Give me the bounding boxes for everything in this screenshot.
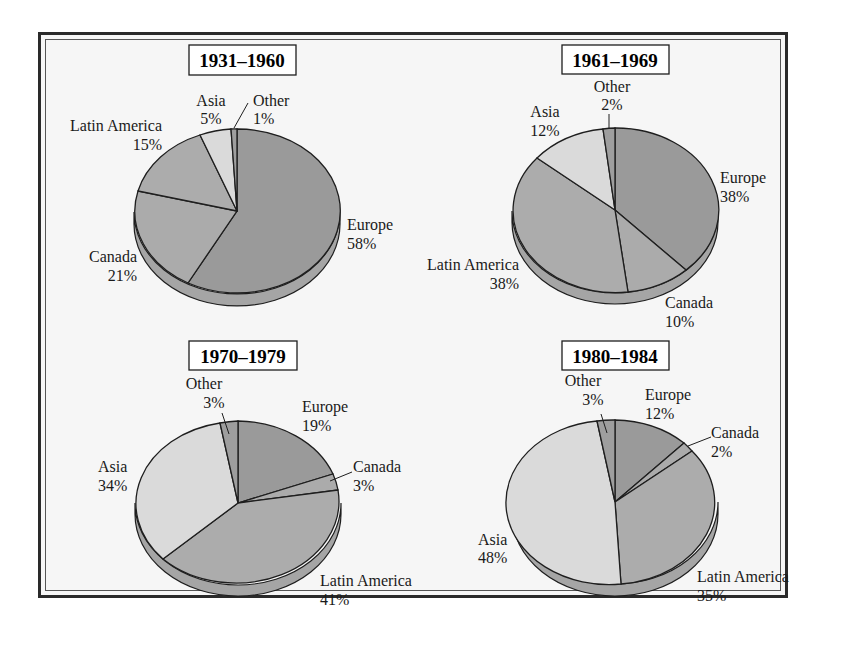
leader-line-other xyxy=(234,103,248,128)
value-latin-america: 38% xyxy=(490,275,519,292)
label-europe: Europe xyxy=(645,386,691,404)
value-canada: 21% xyxy=(108,267,137,284)
label-latin-america: Latin America xyxy=(697,568,789,585)
panel-title-box: 1980–1984 xyxy=(562,341,669,370)
label-latin-america: Latin America xyxy=(320,572,412,589)
pie-slices xyxy=(506,420,715,585)
panel-title: 1931–1960 xyxy=(199,50,285,71)
label-asia: Asia xyxy=(196,92,225,109)
label-asia: Asia xyxy=(478,531,507,548)
pie-slices xyxy=(135,129,340,293)
label-asia: Asia xyxy=(98,458,127,475)
panel-title-box: 1931–1960 xyxy=(189,45,296,75)
value-asia: 34% xyxy=(98,477,127,494)
pie-charts-canvas: 1931–1960 Asia 5% Other 1% Latin America… xyxy=(0,0,846,658)
value-latin-america: 35% xyxy=(697,587,726,604)
value-canada: 3% xyxy=(353,477,374,494)
pie-panel-1961-1969: 1961–1969 Other 2% Asia 12% Europe 38% L… xyxy=(427,45,766,330)
value-other: 3% xyxy=(582,391,603,408)
value-other: 3% xyxy=(203,394,224,411)
value-europe: 19% xyxy=(302,417,331,434)
value-other: 2% xyxy=(601,96,622,113)
label-asia: Asia xyxy=(530,103,559,120)
pie-panel-1980-1984: 1980–1984 Other 3% Europe 12% Canada 2% … xyxy=(478,341,789,604)
label-other: Other xyxy=(186,375,223,392)
panel-title-box: 1961–1969 xyxy=(562,45,669,74)
label-latin-america: Latin America xyxy=(427,256,519,273)
value-canada: 2% xyxy=(711,443,732,460)
label-canada: Canada xyxy=(89,248,137,265)
leader-line-canada xyxy=(688,437,711,446)
label-europe: Europe xyxy=(720,169,766,187)
label-other: Other xyxy=(253,92,290,109)
pie-slices xyxy=(136,421,339,583)
label-europe: Europe xyxy=(347,216,393,234)
value-asia: 5% xyxy=(200,110,221,127)
value-other: 1% xyxy=(253,110,274,127)
pie-panel-1970-1979: 1970–1979 Other 3% Europe 19% Canada 3% … xyxy=(98,341,412,608)
value-europe: 12% xyxy=(645,405,674,422)
label-canada: Canada xyxy=(353,458,401,475)
panel-title-box: 1970–1979 xyxy=(189,341,297,370)
value-asia: 12% xyxy=(530,122,559,139)
label-latin-america: Latin America xyxy=(70,117,162,134)
value-latin-america: 15% xyxy=(133,136,162,153)
label-canada: Canada xyxy=(711,424,759,441)
pie-panel-1931-1960: 1931–1960 Asia 5% Other 1% Latin America… xyxy=(70,45,393,306)
label-other: Other xyxy=(594,78,631,95)
panel-title: 1961–1969 xyxy=(572,50,658,71)
pie-slices xyxy=(513,128,719,293)
value-europe: 38% xyxy=(720,188,749,205)
label-canada: Canada xyxy=(665,294,713,311)
label-other: Other xyxy=(565,372,602,389)
value-asia: 48% xyxy=(478,549,507,566)
value-canada: 10% xyxy=(665,313,694,330)
value-latin-america: 41% xyxy=(320,591,349,608)
panel-title: 1970–1979 xyxy=(200,346,286,367)
value-europe: 58% xyxy=(347,235,376,252)
label-europe: Europe xyxy=(302,398,348,416)
panel-title: 1980–1984 xyxy=(572,346,658,367)
